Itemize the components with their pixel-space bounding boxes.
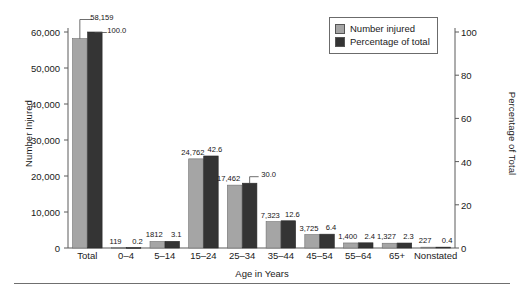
bar-percentage-of-total [320,234,335,248]
y-axis-left-tick-label: 20,000 [14,171,60,182]
legend-item-percentage-of-total: Percentage of total [335,36,430,48]
bar-number-injured [421,247,436,248]
bar-label-percentage-of-total: 100.0 [107,26,126,35]
bar-percentage-of-total [397,243,412,248]
y-axis-left-tick-label: 0 [14,243,60,254]
bar-number-injured [227,185,242,248]
bar-percentage-of-total [126,248,141,249]
bar-label-percentage-of-total: 3.1 [171,230,182,239]
legend-label-number-injured: Number injured [350,23,415,35]
bar-label-percentage-of-total: 6.4 [326,223,337,232]
bar-number-injured [266,222,281,248]
y-axis-left-tick-label: 10,000 [14,207,60,218]
chart-legend: Number injured Percentage of total [329,17,438,54]
bar-number-injured [305,235,320,248]
x-axis-tick-label: 45–54 [306,250,332,261]
bar-number-injured [344,243,359,248]
bar-label-number-injured: 1812 [146,230,163,239]
x-axis-tick-label: 55–64 [345,250,371,261]
y-axis-left-tick-label: 50,000 [14,63,60,74]
bar-chart-figure: Number Injured Percentage of Total Age i… [0,0,524,293]
bar-label-number-injured: 3,725 [300,224,319,233]
bar-label-percentage-of-total: 42.6 [208,145,223,154]
bar-label-percentage-of-total: 2.4 [364,232,375,241]
y-axis-right-tick-label: 40 [461,156,491,167]
bar-number-injured [150,241,165,248]
bar-label-percentage-of-total: 30.0 [261,170,276,179]
leader-line-percentage-of-total [250,177,259,184]
bar-label-percentage-of-total: 0.4 [442,236,453,245]
x-axis-tick-label: Total [77,250,97,261]
bar-label-percentage-of-total: 0.2 [132,237,143,246]
x-axis-tick-label: 5–14 [154,250,175,261]
bar-label-number-injured: 1,327 [377,232,396,241]
bar-number-injured [382,243,397,248]
y-axis-right-tick-label: 60 [461,113,491,124]
bar-number-injured [189,159,204,248]
y-axis-left-tick-label: 40,000 [14,99,60,110]
y-axis-right-tick-label: 100 [461,27,491,38]
bar-label-number-injured: 119 [109,237,121,246]
x-axis-tick-label: 65+ [389,250,405,261]
bar-label-number-injured: 7,323 [261,211,280,220]
x-axis-tick-label: 35–44 [268,250,294,261]
y-axis-left-ticks: 010,00020,00030,00040,00050,00060,000 [14,0,60,293]
y-axis-right-tick-label: 20 [461,199,491,210]
bar-percentage-of-total [204,156,219,248]
bar-label-number-injured: 1,400 [338,232,357,241]
bar-label-number-injured: 17,462 [217,174,240,183]
bar-percentage-of-total [359,243,374,248]
legend-swatch-percentage-of-total [335,37,345,47]
y-axis-right-tick-label: 0 [461,243,491,254]
y-axis-right-tick-label: 80 [461,70,491,81]
bar-percentage-of-total [165,241,180,248]
bar-label-percentage-of-total: 12.6 [285,210,300,219]
bar-label-number-injured: 227 [419,236,432,245]
bar-percentage-of-total [436,247,451,248]
x-axis-tick-label: 15–24 [190,250,216,261]
y-axis-left-tick-label: 60,000 [14,27,60,38]
x-axis-tick-label: Nonstated [414,250,457,261]
x-axis-tick-label: 25–34 [229,250,255,261]
legend-label-percentage-of-total: Percentage of total [350,36,430,48]
bar-label-percentage-of-total: 2.3 [403,232,414,241]
y-axis-right-ticks: 020406080100 [461,0,491,293]
bar-percentage-of-total [88,32,103,248]
bar-percentage-of-total [242,183,257,248]
bar-percentage-of-total [281,221,296,248]
bar-number-injured [111,248,126,249]
bar-number-injured [73,39,88,248]
footer-divider [14,283,510,284]
legend-item-number-injured: Number injured [335,23,430,35]
legend-swatch-number-injured [335,24,345,34]
bar-label-number-injured: 24,762 [181,148,204,157]
x-axis-tick-label: 0–4 [118,250,134,261]
bar-label-number-injured: 58,159 [90,13,113,22]
y-axis-left-tick-label: 30,000 [14,135,60,146]
